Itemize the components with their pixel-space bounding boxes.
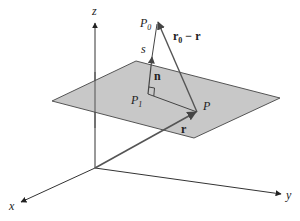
y-axis-label: y bbox=[285, 188, 292, 202]
z-axis-label: z bbox=[91, 4, 97, 18]
distance-s-label: s bbox=[141, 42, 146, 56]
x-axis bbox=[21, 168, 95, 202]
vector-r0-minus-r-label: r0 − r bbox=[173, 29, 201, 45]
x-axis-label: x bbox=[8, 199, 15, 213]
point-p0-label: P0 bbox=[139, 16, 151, 32]
point-p-label: P bbox=[202, 99, 211, 113]
vector-n-label: n bbox=[154, 69, 161, 83]
y-axis bbox=[95, 168, 281, 194]
segment-s bbox=[152, 24, 157, 57]
diagram-canvas: z x y P0 r0 − r s n P1 P r bbox=[0, 0, 300, 221]
vector-r-label: r bbox=[181, 122, 187, 136]
plane bbox=[52, 61, 280, 138]
